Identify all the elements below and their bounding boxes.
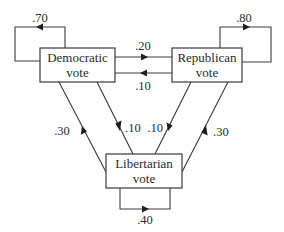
arrowhead-icon (142, 206, 149, 213)
arrowhead-icon (141, 54, 148, 61)
transition-diagram: .70 .80 .40 .20 .10 .10 .30 .10 (0, 0, 284, 232)
edge-label-dem-rep: .20 (135, 39, 151, 53)
arrowhead-icon (140, 70, 147, 77)
edge-label-rep-dem: .10 (135, 79, 151, 93)
edge-label-lib-lib: .40 (137, 213, 153, 227)
edge-label-rep-lib: .10 (147, 121, 163, 135)
edge-lib-to-rep: .30 (182, 82, 229, 172)
edge-lib-to-dem: .30 (54, 82, 106, 172)
arrowhead-icon (201, 125, 207, 135)
svg-text:vote: vote (66, 65, 89, 80)
svg-text:Republican: Republican (177, 50, 237, 65)
edge-dem-to-rep: .20 (115, 39, 172, 61)
edge-label-dem-dem: .70 (32, 11, 48, 25)
edge-label-lib-rep: .30 (213, 125, 229, 139)
loop-libertarian: .40 (120, 188, 170, 227)
node-democratic: Democratic vote (40, 48, 115, 82)
svg-text:vote: vote (133, 171, 156, 186)
edge-rep-to-lib: .10 (147, 82, 191, 154)
edge-dem-to-lib: .10 (97, 82, 141, 154)
node-libertarian: Libertarian vote (106, 154, 182, 188)
svg-text:Libertarian: Libertarian (115, 156, 173, 171)
edge-label-dem-lib: .10 (125, 121, 141, 135)
svg-text:vote: vote (196, 65, 219, 80)
edge-label-rep-rep: .80 (236, 11, 252, 25)
svg-text:Democratic: Democratic (47, 50, 108, 65)
edge-rep-to-dem: .10 (115, 70, 172, 94)
node-republican: Republican vote (172, 48, 242, 82)
edge-label-lib-dem: .30 (54, 124, 70, 138)
